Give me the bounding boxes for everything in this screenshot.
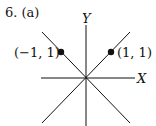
point-label-neg1-1: (−1, 1) [14, 46, 60, 59]
x-axis-label: X [137, 72, 146, 85]
problem-part: (a) [22, 5, 40, 20]
problem-number: 6. [5, 5, 17, 20]
point-label-1-1: (1, 1) [117, 46, 152, 59]
y-axis-label: Y [82, 12, 91, 25]
problem-label: 6. (a) [5, 6, 39, 19]
point-1-1 [108, 49, 114, 55]
